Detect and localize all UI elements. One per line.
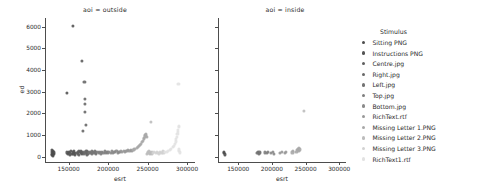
x-tick-label-inside-3: 300000 [328,166,350,172]
legend-item-left-jpg[interactable]: Left.jpg [362,80,395,89]
x-tick-label-outside-1: 200000 [97,166,119,172]
x-tick-label-outside-0: 150000 [58,166,80,172]
legend-marker-icon [362,94,365,97]
x-axis-spine-inside [218,162,346,163]
y-tick-label-0: 0 [11,154,41,160]
x-axis-title-outside: esrt [80,175,160,182]
legend-item-label: Centre.jpg [372,60,404,67]
y-tick-label-1: 1000 [11,132,41,138]
y-tick-inside-0 [215,157,218,158]
legend-title: Stimulus [380,28,407,35]
chart-root: aoi = outside aoi = inside esrt esrt ed … [0,0,480,193]
x-tick-outside-1 [108,162,109,165]
y-tick-outside-1 [42,135,45,136]
legend-marker-icon [362,126,365,129]
legend-item-label: Missing Letter 3.PNG [372,145,435,152]
legend-item-label: Left.jpg [372,81,395,88]
legend-marker-icon [362,104,365,107]
legend: Stimulus Sitting PNGInstructions PNGCent… [362,28,480,168]
x-tick-label-inside-2: 250000 [295,166,317,172]
legend-item-label: Instructions PNG [372,50,423,57]
legend-item-instructions-png[interactable]: Instructions PNG [362,49,423,58]
legend-item-label: Top.jpg [372,92,394,99]
y-tick-inside-3 [215,92,218,93]
legend-item-missing-letter-1-png[interactable]: Missing Letter 1.PNG [362,123,436,132]
x-tick-inside-2 [306,162,307,165]
legend-item-centre-jpg[interactable]: Centre.jpg [362,59,404,68]
x-tick-label-inside-1: 200000 [261,166,283,172]
y-tick-label-3: 3000 [11,89,41,95]
legend-item-top-jpg[interactable]: Top.jpg [362,91,394,100]
legend-marker-icon [362,157,365,160]
legend-item-bottom-jpg[interactable]: Bottom.jpg [362,102,406,111]
legend-item-right-jpg[interactable]: Right.jpg [362,70,400,79]
x-tick-label-inside-0: 150000 [227,166,249,172]
x-tick-inside-1 [272,162,273,165]
y-tick-inside-5 [215,48,218,49]
y-tick-outside-2 [42,113,45,114]
legend-marker-icon [362,51,365,54]
y-tick-label-4: 4000 [11,67,41,73]
y-tick-inside-4 [215,70,218,71]
y-axis-spine-inside [218,18,219,162]
legend-item-label: Missing Letter 2.PNG [372,134,435,141]
x-tick-inside-0 [238,162,239,165]
legend-item-label: Missing Letter 1.PNG [372,124,435,131]
x-tick-label-outside-2: 250000 [137,166,159,172]
x-tick-outside-0 [69,162,70,165]
y-tick-label-2: 2000 [11,110,41,116]
x-tick-inside-3 [339,162,340,165]
x-axis-spine-outside [45,162,195,163]
legend-marker-icon [362,136,365,139]
legend-item-label: RichText.rtf [372,113,406,120]
legend-marker-icon [362,115,365,118]
legend-item-richtext1-rtf[interactable]: RichText1.rtf [362,155,411,164]
x-axis-title-inside: esrt [242,175,322,182]
legend-item-label: Sitting PNG [372,39,407,46]
y-tick-label-5: 5000 [11,45,41,51]
legend-item-missing-letter-2-png[interactable]: Missing Letter 2.PNG [362,133,436,142]
legend-item-richtext-rtf[interactable]: RichText.rtf [362,112,407,121]
x-tick-outside-2 [148,162,149,165]
y-tick-outside-6 [42,27,45,28]
y-tick-outside-4 [42,70,45,71]
y-tick-label-6: 6000 [11,24,41,30]
legend-item-label: RichText1.rtf [372,156,410,163]
x-tick-outside-3 [187,162,188,165]
x-tick-label-outside-3: 300000 [176,166,198,172]
legend-item-label: Right.jpg [372,71,399,78]
facet-title-inside: aoi = inside [210,6,360,13]
facet-panel-inside: aoi = inside [210,0,360,193]
legend-marker-icon [362,41,365,44]
legend-marker-icon [362,62,365,65]
y-tick-inside-6 [215,27,218,28]
legend-item-label: Bottom.jpg [372,103,406,110]
y-tick-inside-2 [215,113,218,114]
y-tick-outside-0 [42,157,45,158]
facet-title-outside: aoi = outside [0,6,210,13]
legend-marker-icon [362,83,365,86]
legend-item-sitting-png[interactable]: Sitting PNG [362,38,407,47]
y-tick-outside-3 [42,92,45,93]
legend-marker-icon [362,73,365,76]
legend-marker-icon [362,147,365,150]
y-axis-spine-outside [45,18,46,162]
y-tick-inside-1 [215,135,218,136]
legend-item-missing-letter-3-png[interactable]: Missing Letter 3.PNG [362,144,436,153]
y-tick-outside-5 [42,48,45,49]
